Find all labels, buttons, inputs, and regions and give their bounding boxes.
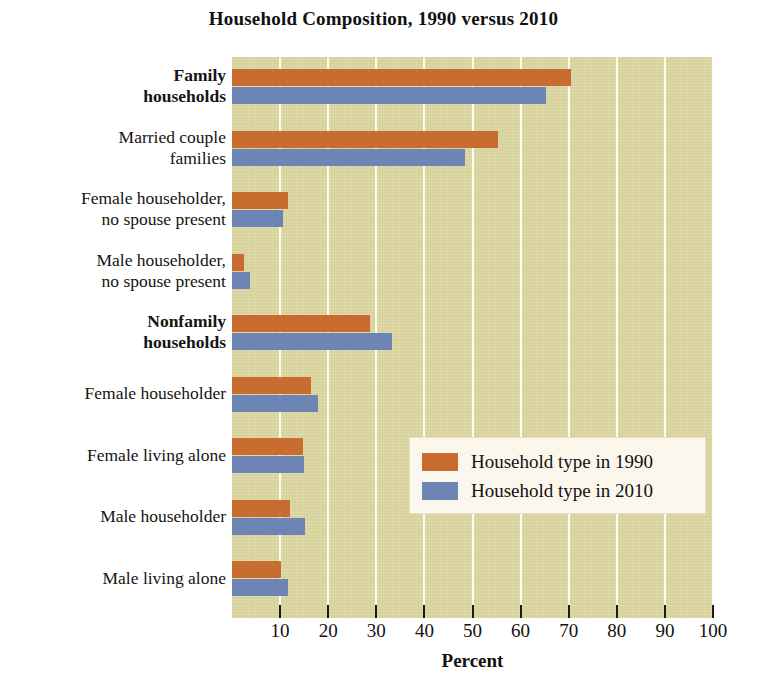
x-tick-20 — [327, 605, 329, 618]
bar-2010 — [232, 518, 305, 535]
x-tick-label-10: 10 — [257, 620, 303, 642]
bar-2010 — [232, 333, 392, 350]
x-tick-label-80: 80 — [594, 620, 640, 642]
bar-1990 — [232, 315, 370, 332]
bar-2010 — [232, 272, 250, 289]
legend-item-2010: Household type in 2010 — [422, 476, 695, 505]
x-tick-label-30: 30 — [353, 620, 399, 642]
bar-1990 — [232, 131, 498, 148]
bar-1990 — [232, 500, 290, 517]
category-label-text: Nonfamily households — [0, 311, 226, 353]
bar-group — [232, 192, 713, 227]
x-tick-label-50: 50 — [450, 620, 496, 642]
category-label-text: Male householder — [0, 506, 226, 527]
category-label-text: Female householder, no spouse present — [0, 188, 226, 230]
bar-2010 — [232, 456, 304, 473]
x-tick-40 — [423, 605, 425, 618]
x-tick-80 — [616, 605, 618, 618]
x-tick-100 — [712, 605, 714, 618]
bar-1990 — [232, 192, 288, 209]
x-axis-title: Percent — [232, 650, 713, 672]
bar-group — [232, 315, 713, 350]
bar-group — [232, 561, 713, 596]
bar-group — [232, 131, 713, 166]
category-label-text: Female householder — [0, 383, 226, 404]
x-tick-70 — [568, 605, 570, 618]
bar-1990 — [232, 254, 244, 271]
x-tick-label-70: 70 — [546, 620, 592, 642]
x-tick-30 — [375, 605, 377, 618]
x-tick-label-20: 20 — [305, 620, 351, 642]
bar-group — [232, 254, 713, 289]
category-label-text: Male living alone — [0, 568, 226, 589]
x-tick-label-40: 40 — [401, 620, 447, 642]
legend-label-2010: Household type in 2010 — [471, 481, 653, 501]
category-label-text: Male householder, no spouse present — [0, 250, 226, 292]
bar-1990 — [232, 438, 303, 455]
x-tick-50 — [472, 605, 474, 618]
category-label-text: Married couple families — [0, 127, 226, 169]
x-tick-label-90: 90 — [642, 620, 688, 642]
category-label-text: Family households — [0, 65, 226, 107]
bar-2010 — [232, 210, 283, 227]
x-tick-label-60: 60 — [498, 620, 544, 642]
x-tick-90 — [664, 605, 666, 618]
bar-group — [232, 377, 713, 412]
legend-swatch-1990 — [422, 453, 458, 471]
bar-1990 — [232, 69, 571, 86]
bar-2010 — [232, 87, 546, 104]
bar-2010 — [232, 395, 318, 412]
bar-1990 — [232, 561, 281, 578]
bar-2010 — [232, 149, 465, 166]
legend-label-1990: Household type in 1990 — [471, 452, 653, 472]
x-tick-60 — [520, 605, 522, 618]
bar-2010 — [232, 579, 288, 596]
x-tick-10 — [279, 605, 281, 618]
legend-swatch-2010 — [422, 482, 458, 500]
chart-figure: Household Composition, 1990 versus 2010 … — [0, 0, 767, 698]
chart-legend: Household type in 1990 Household type in… — [409, 437, 706, 514]
chart-title: Household Composition, 1990 versus 2010 — [0, 8, 767, 30]
x-tick-label-100: 100 — [690, 620, 736, 642]
legend-item-1990: Household type in 1990 — [422, 447, 695, 476]
bar-1990 — [232, 377, 311, 394]
category-label-text: Female living alone — [0, 445, 226, 466]
bar-group — [232, 69, 713, 104]
